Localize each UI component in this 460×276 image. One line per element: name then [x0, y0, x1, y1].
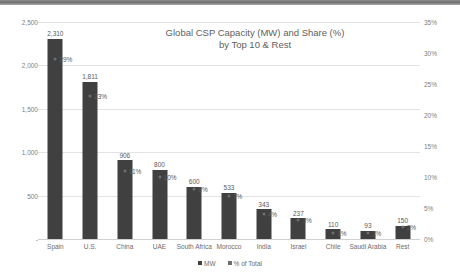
- bar-group[interactable]: 237: [281, 22, 316, 239]
- y-axis-right-tick: 5%: [424, 205, 454, 212]
- x-axis-tick-label: Morocco: [217, 243, 242, 250]
- percent-marker[interactable]: [158, 176, 161, 179]
- bar-group[interactable]: 800: [142, 22, 177, 239]
- x-axis-tick-label: U.S.: [84, 243, 97, 250]
- percent-value-label: 2%: [407, 223, 416, 230]
- x-axis-tick-label: UAE: [153, 243, 166, 250]
- percent-marker[interactable]: [297, 219, 300, 222]
- percent-value-label: 7%: [233, 192, 242, 199]
- percent-value-label: 8%: [198, 186, 207, 193]
- y-axis-right-tick: 20%: [424, 112, 454, 119]
- bar-value-label: 800: [154, 161, 165, 168]
- chart-canvas: Global CSP Capacity (MW) and Share (%) b…: [0, 5, 460, 276]
- legend-item[interactable]: % of Total: [228, 259, 262, 267]
- bar-group[interactable]: 600: [177, 22, 212, 239]
- bar-value-label: 2,310: [47, 30, 63, 37]
- percent-value-label: 4%: [268, 211, 277, 218]
- bar[interactable]: [221, 193, 236, 239]
- percent-marker[interactable]: [262, 213, 265, 216]
- bar-value-label: 600: [189, 178, 200, 185]
- percent-marker[interactable]: [332, 231, 335, 234]
- percent-marker[interactable]: [228, 194, 231, 197]
- bar-group[interactable]: 1,811: [73, 22, 108, 239]
- percent-value-label: 10%: [164, 174, 177, 181]
- bar-value-label: 237: [293, 210, 304, 217]
- x-axis-categories: SpainU.S.ChinaUAESouth AfricaMoroccoIndi…: [38, 243, 420, 255]
- percent-value-label: 11%: [129, 167, 142, 174]
- x-axis-tick-label: China: [116, 243, 133, 250]
- percent-value-label: 23%: [94, 93, 107, 100]
- percent-marker[interactable]: [193, 188, 196, 191]
- bar-group[interactable]: 110: [316, 22, 351, 239]
- bar-value-label: 1,811: [82, 73, 98, 80]
- percent-marker[interactable]: [89, 95, 92, 98]
- bar-value-label: 110: [328, 221, 338, 228]
- percent-marker[interactable]: [401, 225, 404, 228]
- bar-value-label: 533: [224, 184, 235, 191]
- legend-label: MW: [204, 260, 216, 267]
- legend-item[interactable]: MW: [198, 259, 216, 267]
- chart-legend: MW% of Total: [0, 259, 460, 267]
- bar[interactable]: [187, 187, 202, 239]
- legend-swatch: [198, 261, 202, 265]
- y-axis-right-tick: 30%: [424, 50, 454, 57]
- plot-area: 2,31029%1,81123%90611%80010%6008%5337%34…: [38, 22, 420, 239]
- percent-marker[interactable]: [123, 169, 126, 172]
- bar[interactable]: [48, 39, 63, 240]
- bar-value-label: 343: [258, 201, 269, 208]
- bar-group[interactable]: 906: [107, 22, 142, 239]
- percent-value-label: 1%: [337, 229, 346, 236]
- gridline: [38, 239, 420, 240]
- bar-group[interactable]: 150: [385, 22, 420, 239]
- y-axis-right-tick: 10%: [424, 174, 454, 181]
- percent-marker[interactable]: [366, 231, 369, 234]
- bar-group[interactable]: 2,310: [38, 22, 73, 239]
- y-axis-right-tick: 35%: [424, 19, 454, 26]
- bar-group[interactable]: 93: [351, 22, 386, 239]
- bar-value-label: 93: [364, 222, 371, 229]
- bar-group[interactable]: 533: [212, 22, 247, 239]
- bar-group[interactable]: 343: [246, 22, 281, 239]
- percent-marker[interactable]: [54, 58, 57, 61]
- x-axis-tick-label: South Africa: [177, 243, 212, 250]
- x-axis-tick-label: Saudi Arabia: [349, 243, 386, 250]
- y-axis-right-tick: 25%: [424, 81, 454, 88]
- legend-swatch: [228, 261, 232, 265]
- x-axis-tick-label: Chile: [326, 243, 341, 250]
- x-axis-tick-label: Israel: [291, 243, 307, 250]
- bar-value-label: 906: [119, 152, 130, 159]
- x-axis-tick-label: Spain: [47, 243, 64, 250]
- y-axis-right-tick: 0%: [424, 236, 454, 243]
- percent-value-label: 3%: [302, 217, 311, 224]
- legend-label: % of Total: [234, 260, 262, 267]
- x-axis-tick-label: Rest: [396, 243, 409, 250]
- percent-value-label: 29%: [59, 56, 72, 63]
- y-axis-right-tick: 15%: [424, 143, 454, 150]
- x-axis-tick-label: India: [257, 243, 271, 250]
- percent-value-label: 1%: [372, 229, 381, 236]
- bar[interactable]: [83, 82, 98, 239]
